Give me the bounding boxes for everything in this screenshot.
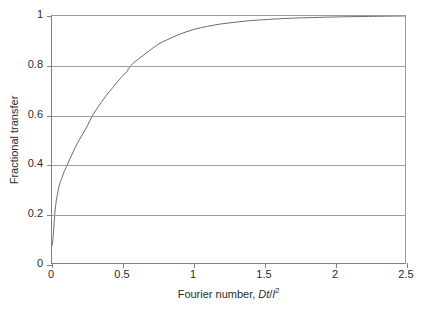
- y-tick-mark: [47, 116, 52, 117]
- y-tick-label: 0.4: [28, 158, 43, 169]
- gridline: [52, 15, 405, 16]
- y-tick-label: 0.6: [28, 109, 43, 120]
- x-tick-label: 2.5: [398, 269, 413, 280]
- y-tick-mark: [47, 215, 52, 216]
- x-axis-title-numerator: Dt: [258, 288, 269, 300]
- y-tick-mark: [47, 165, 52, 166]
- gridline: [52, 215, 405, 216]
- x-tick-label: 1.5: [256, 269, 271, 280]
- x-tick-label: 1: [190, 269, 196, 280]
- chart-figure: Fractional transfer Fourier number, Dt/l…: [0, 0, 424, 311]
- x-axis-title-exponent: 2: [275, 286, 279, 295]
- gridline: [52, 116, 405, 117]
- y-tick-mark: [47, 66, 52, 67]
- fractional-transfer-curve: [52, 16, 405, 263]
- x-tick-label: 0.5: [114, 269, 129, 280]
- y-tick-label: 0.8: [28, 59, 43, 70]
- gridline: [52, 165, 405, 166]
- y-tick-label: 1: [37, 9, 43, 20]
- y-tick-label: 0.2: [28, 208, 43, 219]
- y-tick-label: 0: [37, 258, 43, 269]
- plot-area: [51, 15, 406, 264]
- x-axis-title-prefix: Fourier number,: [178, 288, 259, 300]
- x-tick-label: 0: [48, 269, 54, 280]
- y-axis-title: Fractional transfer: [6, 15, 22, 264]
- x-axis-title: Fourier number, Dt/l2: [51, 288, 406, 301]
- y-tick-mark: [47, 16, 52, 17]
- y-axis-title-text: Fractional transfer: [8, 95, 20, 184]
- x-tick-label: 2: [332, 269, 338, 280]
- gridline: [52, 66, 405, 67]
